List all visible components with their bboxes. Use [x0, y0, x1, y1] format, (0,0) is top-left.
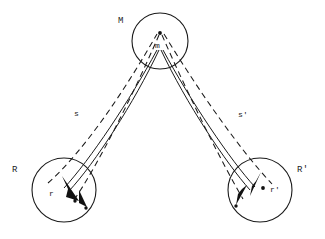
- dashed-ray-right-outer: [164, 34, 272, 184]
- mass-point-dot: [158, 31, 162, 35]
- source-secondary-dot: [84, 206, 87, 209]
- image-point-dot: [261, 186, 265, 190]
- arrowhead-source-dashed: [79, 190, 87, 207]
- image-secondary-dot: [234, 204, 237, 207]
- image-region-label: R': [297, 165, 308, 175]
- source-point-label: r: [49, 189, 54, 198]
- source-point-dot: [73, 199, 76, 202]
- mass-point-label: m: [155, 41, 160, 50]
- image-point-label: r': [270, 185, 280, 194]
- solid-ray-left-outer: [64, 50, 157, 188]
- dashed-ray-left-outer: [48, 34, 157, 183]
- arrowhead-image-dashed: [236, 185, 247, 205]
- diagram-canvas: M m R r R' r' s s': [0, 0, 325, 239]
- arrowhead-source-solid: [62, 176, 79, 201]
- mass-region-label: M: [118, 16, 124, 26]
- path-right-label: s': [238, 110, 248, 119]
- source-region-label: R: [12, 165, 18, 175]
- lensing-diagram: M m R r R' r' s s': [0, 0, 325, 239]
- path-left-label: s: [74, 109, 79, 118]
